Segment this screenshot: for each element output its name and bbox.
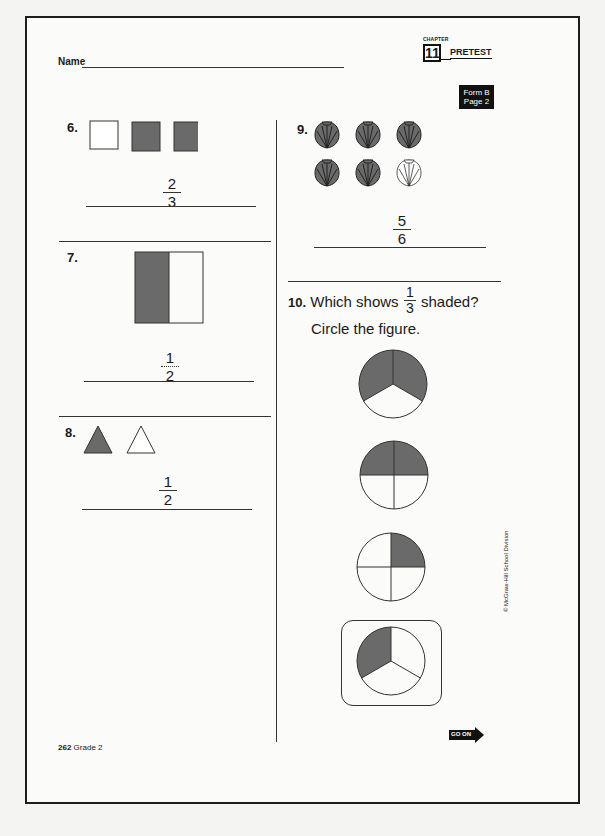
copyright-notice: © McGraw-Hill School Division	[503, 531, 509, 612]
name-label: Name	[58, 56, 85, 67]
question-10-number: 10.	[288, 295, 306, 310]
square-shaded-icon	[132, 122, 160, 151]
shell-unshaded-icon	[397, 160, 421, 186]
shell-shaded-icon	[397, 122, 421, 148]
question-7-rectangle	[133, 250, 205, 326]
question-8-answer-line[interactable]	[82, 509, 252, 510]
pretest-connector	[441, 59, 451, 60]
question-7-answer-line[interactable]	[84, 381, 254, 382]
grade-label: Grade 2	[74, 743, 103, 752]
prompt-fraction: 1 3	[403, 286, 417, 315]
shell-shaded-icon	[356, 160, 380, 186]
question-8-triangles	[82, 424, 162, 456]
form-page-badge: Form B Page 2	[459, 85, 494, 109]
rectangle-shaded-half-icon	[135, 252, 169, 323]
question-9-shells	[314, 121, 434, 189]
shell-shaded-icon	[315, 122, 339, 148]
question-6-answer-line[interactable]	[86, 206, 256, 207]
pretest-label: PRETEST	[450, 47, 492, 59]
question-6-number: 6.	[67, 120, 78, 135]
section-separator	[288, 281, 501, 282]
question-10-instruction: Circle the figure.	[311, 320, 420, 337]
page-number: 262	[58, 743, 71, 752]
form-label: Form B	[459, 88, 494, 97]
question-8-number: 8.	[65, 425, 76, 440]
section-separator	[59, 241, 271, 242]
page-footer: 262 Grade 2	[58, 743, 103, 752]
chapter-label: CHAPTER	[423, 36, 449, 42]
triangle-unshaded-icon	[127, 426, 155, 453]
question-8-answer: 1 2	[156, 474, 180, 507]
question-7-answer: 1 2	[158, 350, 182, 383]
shell-shaded-icon	[356, 122, 380, 148]
section-separator	[59, 416, 271, 417]
chapter-number: 11	[423, 44, 441, 62]
question-9-answer-line[interactable]	[314, 247, 486, 248]
question-6-answer: 2 3	[160, 176, 184, 209]
question-7-number: 7.	[67, 250, 78, 265]
page-label: Page 2	[459, 97, 494, 106]
name-input-line[interactable]	[82, 67, 344, 68]
option-d-circle[interactable]	[355, 625, 427, 697]
question-9-answer: 5 6	[390, 213, 414, 246]
question-9-number: 9.	[297, 122, 308, 137]
triangle-shaded-icon	[84, 426, 112, 453]
go-on-label: GO ON	[451, 731, 471, 737]
question-10-prompt: 10. Which shows 1 3 shaded?	[288, 292, 479, 315]
square-unshaded-icon	[90, 121, 118, 149]
question-6-squares	[88, 119, 198, 154]
option-a-circle[interactable]	[357, 348, 429, 420]
go-on-badge: GO ON	[449, 727, 485, 747]
shell-shaded-icon	[315, 160, 339, 186]
column-divider	[276, 120, 277, 742]
option-b-circle[interactable]	[358, 439, 430, 511]
square-shaded-icon	[174, 122, 198, 151]
option-c-circle[interactable]	[355, 531, 427, 603]
